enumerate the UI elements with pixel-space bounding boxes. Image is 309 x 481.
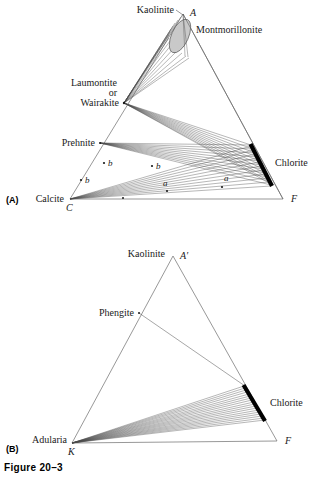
panel-a: b b b a a Kaolinite Montmorillonite Laum…: [6, 4, 308, 213]
panel-a-edge-af: [183, 14, 283, 199]
figure-caption: Figure 20–3: [4, 462, 63, 473]
chlorite-bar-b: [244, 385, 266, 421]
edge-dot: [122, 197, 124, 199]
vertex-label-a: A: [189, 7, 197, 18]
panel-b-triangle: [72, 256, 277, 443]
phengite-chlorite-tie: [139, 313, 245, 386]
adularia-chlorite-fan: [72, 386, 265, 443]
vertex-label-c: C: [66, 202, 73, 213]
sample-label: a: [163, 178, 168, 188]
vertex-label-k: K: [67, 446, 76, 457]
label-chlorite-a: Chlorite: [275, 157, 308, 168]
label-prehnite: Prehnite: [62, 137, 96, 148]
label-wairakite: Wairakite: [80, 97, 119, 108]
vertex-label-a-prime: A′: [179, 250, 189, 261]
sample-dot: [80, 179, 82, 181]
sample-dot: [221, 186, 223, 188]
label-calcite: Calcite: [36, 193, 65, 204]
vertex-label-f-a: F: [290, 193, 298, 204]
sample-dot: [166, 190, 168, 192]
sample-label: b: [108, 158, 113, 168]
panel-b: Kaolinite Phengite Chlorite Adularia A′ …: [6, 248, 303, 457]
label-kaolinite-a: Kaolinite: [137, 4, 175, 15]
sample-dot: [103, 162, 105, 164]
label-chlorite-b: Chlorite: [270, 397, 303, 408]
chlorite-bar-a: [251, 144, 273, 186]
label-kaolinite-b: Kaolinite: [128, 248, 166, 259]
calcite-chlorite-fan: [70, 146, 271, 199]
figure-20-3: b b b a a Kaolinite Montmorillonite Laum…: [0, 0, 309, 481]
laumontite-node: [123, 102, 125, 104]
panel-tag-b: (B): [6, 444, 19, 454]
sample-dot: [151, 165, 153, 167]
panel-a-leaders: [176, 10, 183, 15]
label-adularia: Adularia: [32, 434, 68, 445]
ternary-diagram-svg: b b b a a Kaolinite Montmorillonite Laum…: [0, 0, 309, 481]
vertex-label-f-b: F: [284, 435, 292, 446]
label-phengite: Phengite: [99, 307, 135, 318]
label-montmorillonite: Montmorillonite: [196, 24, 263, 35]
prehnite-node: [99, 142, 101, 144]
sample-label: a: [224, 173, 229, 183]
sample-label: b: [156, 161, 161, 171]
panel-tag-a: (A): [6, 195, 19, 205]
phengite-node: [138, 312, 140, 314]
sample-label: b: [85, 175, 90, 185]
